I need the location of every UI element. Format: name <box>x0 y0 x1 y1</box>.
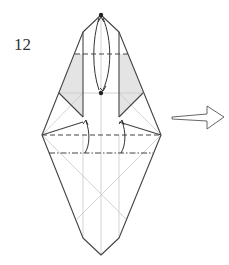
next-step-arrow-icon <box>172 106 224 129</box>
origami-diagram <box>0 0 229 265</box>
